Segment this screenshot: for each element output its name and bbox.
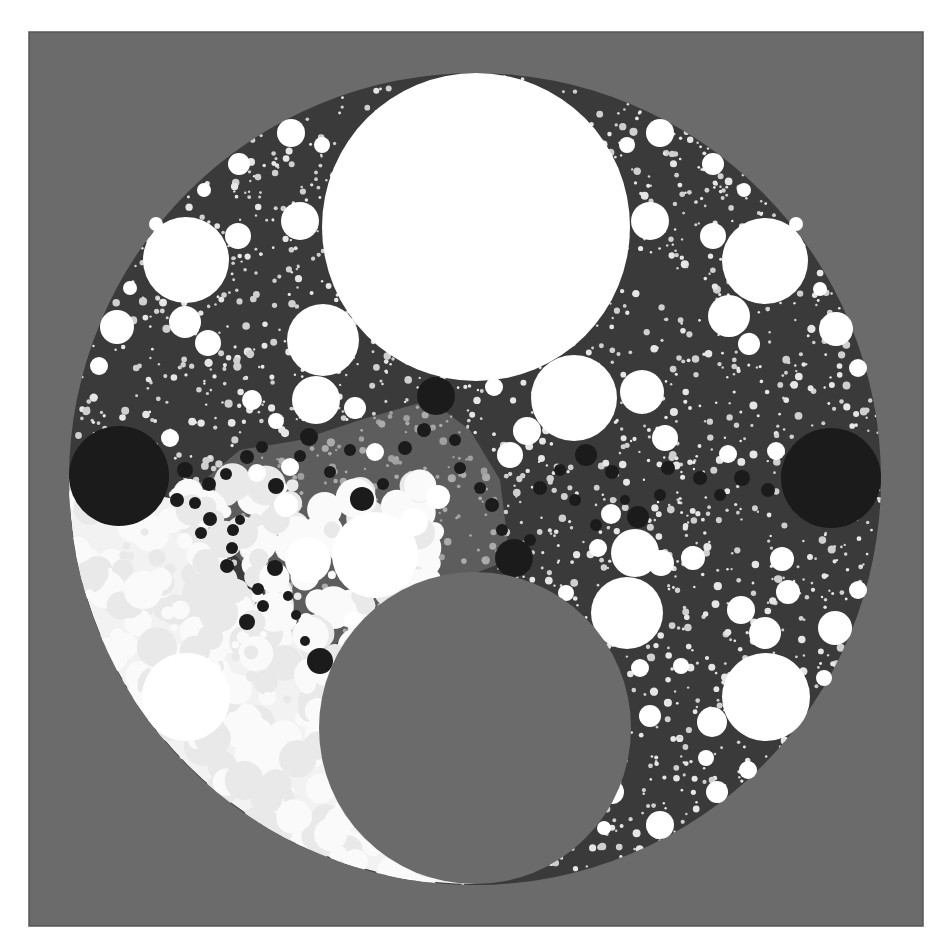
white-circle xyxy=(819,312,853,346)
white-circle xyxy=(818,611,852,645)
white-circle xyxy=(767,442,785,460)
white-circle xyxy=(161,429,179,447)
white-circle xyxy=(225,223,251,249)
white-circle xyxy=(497,442,523,468)
black-circle xyxy=(474,482,486,494)
black-circle xyxy=(590,519,602,531)
black-circle xyxy=(554,464,566,476)
white-circle xyxy=(646,811,674,839)
white-circle xyxy=(776,580,800,604)
white-circle xyxy=(697,707,727,737)
white-circle xyxy=(248,464,266,482)
black-circle xyxy=(524,534,536,546)
white-circle xyxy=(426,485,450,509)
black-circle xyxy=(344,444,356,456)
white-circle xyxy=(702,153,724,175)
black-circle xyxy=(227,524,239,536)
black-circle xyxy=(714,489,726,501)
black-circle xyxy=(294,450,306,462)
black-circle xyxy=(195,527,207,539)
white-circle xyxy=(639,705,661,727)
white-circle xyxy=(727,596,755,624)
black-circle xyxy=(69,426,169,526)
white-circle xyxy=(123,281,137,295)
black-circle xyxy=(620,495,630,505)
white-circle xyxy=(619,137,635,153)
black-circle xyxy=(693,471,707,485)
white-circle xyxy=(849,581,867,599)
white-circle xyxy=(149,217,163,231)
black-circle xyxy=(170,493,184,507)
black-circle xyxy=(252,583,264,595)
white-circle xyxy=(738,333,760,355)
white-circle xyxy=(281,202,319,240)
white-circle xyxy=(648,550,674,576)
white-circle xyxy=(100,310,134,344)
black-circle xyxy=(300,636,310,646)
white-circle xyxy=(631,202,669,240)
black-circle xyxy=(240,450,254,464)
white-circle xyxy=(285,537,331,583)
white-circle xyxy=(531,355,617,441)
white-circle xyxy=(242,390,262,410)
fractal-canvas xyxy=(0,0,949,945)
black-circle xyxy=(417,377,455,415)
white-circle xyxy=(620,370,664,414)
white-circle xyxy=(597,821,611,835)
white-circle xyxy=(737,183,751,197)
black-circle xyxy=(239,614,255,630)
black-circle xyxy=(417,423,431,437)
white-circle xyxy=(739,761,757,779)
white-circle xyxy=(314,137,330,153)
circle-packing-fractal xyxy=(0,0,949,945)
white-circle xyxy=(816,670,832,686)
white-circle xyxy=(344,397,366,419)
black-circle xyxy=(291,610,301,620)
black-circle xyxy=(220,559,234,573)
gray-hole xyxy=(319,572,631,884)
black-circle xyxy=(605,465,619,479)
white-circle xyxy=(366,443,384,461)
black-circle xyxy=(256,441,268,453)
white-circle xyxy=(513,417,541,445)
white-circle xyxy=(322,73,630,381)
white-circle xyxy=(601,504,621,524)
black-circle xyxy=(324,466,336,478)
white-circle xyxy=(652,425,678,451)
black-circle xyxy=(226,542,238,554)
white-circle xyxy=(673,658,689,674)
black-circle xyxy=(350,487,374,511)
black-circle xyxy=(267,560,283,576)
white-circle xyxy=(770,547,794,571)
white-circle xyxy=(708,295,750,337)
white-circle xyxy=(90,357,108,375)
white-circle xyxy=(700,223,726,249)
white-circle xyxy=(681,546,705,570)
black-circle xyxy=(398,441,412,455)
white-circle xyxy=(749,617,781,649)
black-circle xyxy=(654,489,666,501)
black-circle xyxy=(454,462,466,474)
white-circle xyxy=(485,378,503,396)
black-circle xyxy=(307,648,333,674)
black-circle xyxy=(569,494,581,506)
white-circle xyxy=(400,508,428,536)
white-circle xyxy=(169,306,201,338)
black-circle xyxy=(177,462,193,478)
black-circle xyxy=(661,461,675,475)
white-circle xyxy=(268,413,284,429)
black-circle xyxy=(235,515,245,525)
white-circle xyxy=(142,653,230,741)
black-circle xyxy=(781,428,881,528)
white-circle xyxy=(197,183,211,197)
white-circle xyxy=(228,153,250,175)
white-circle xyxy=(292,376,340,424)
white-circle xyxy=(589,539,607,557)
black-circle xyxy=(257,600,269,612)
white-circle xyxy=(195,330,221,356)
black-circle xyxy=(627,506,649,528)
black-circle xyxy=(575,444,597,466)
black-circle xyxy=(761,483,775,497)
black-circle xyxy=(268,478,284,494)
white-circle xyxy=(813,282,827,296)
